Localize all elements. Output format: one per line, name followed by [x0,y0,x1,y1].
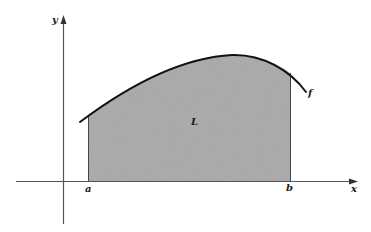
y-axis-arrow-icon [61,15,67,24]
bound-label-a: a [85,184,91,194]
function-label: f [308,88,312,98]
x-axis-label: x [351,184,357,194]
area-under-curve-figure: y L f a b x [0,0,371,232]
region-l-shading [88,55,290,181]
bound-label-b: b [286,183,293,193]
region-label: L [191,117,198,127]
y-axis-label: y [52,15,58,25]
diagram-canvas [0,0,371,232]
